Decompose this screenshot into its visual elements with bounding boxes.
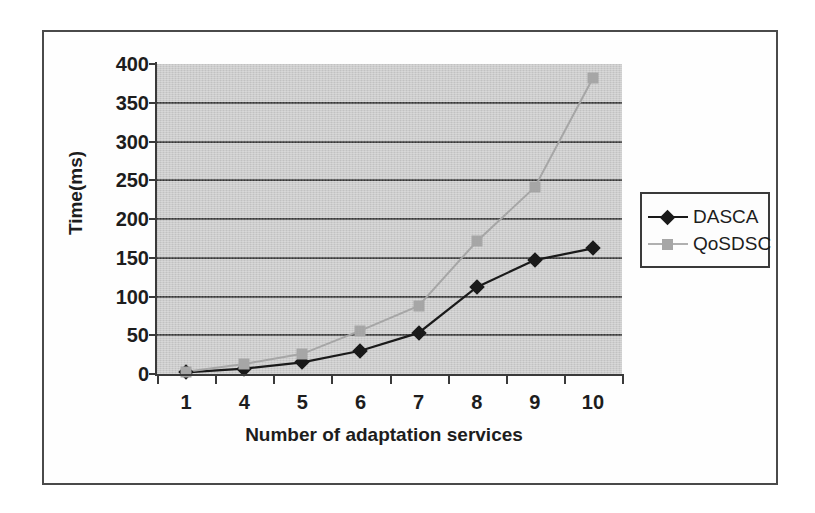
diamond-marker-icon <box>660 209 676 225</box>
x-axis-tick-label: 8 <box>455 392 499 412</box>
chart-legend: DASCA QoSDSC <box>640 192 770 268</box>
figure-frame: 050100150200250300350400 145678910 Time(… <box>42 30 778 485</box>
line-chart: 050100150200250300350400 145678910 Time(… <box>44 32 780 487</box>
x-axis-tick <box>215 376 217 384</box>
x-axis-tick-label: 9 <box>513 392 557 412</box>
y-axis-tick-label: 150 <box>103 248 149 268</box>
series-line-qosdsc <box>186 78 593 372</box>
y-axis-tick-label: 50 <box>103 325 149 345</box>
y-axis-tick <box>149 63 157 65</box>
y-axis-tick-label: 400 <box>103 54 149 74</box>
y-axis-tick-label: 300 <box>103 132 149 152</box>
x-axis-tick <box>273 376 275 384</box>
x-axis-tick-label: 7 <box>397 392 441 412</box>
legend-item-dasca[interactable]: DASCA <box>648 203 761 230</box>
series-line-dasca <box>186 248 593 372</box>
square-marker-icon <box>662 239 673 250</box>
data-point-qosdsc-6 <box>355 325 366 336</box>
x-axis-tick <box>331 376 333 384</box>
x-axis-tick <box>157 376 159 384</box>
y-axis-tick-label: 100 <box>103 287 149 307</box>
plot-area <box>157 64 622 374</box>
legend-swatch-dasca <box>648 210 688 224</box>
data-point-qosdsc-5 <box>297 348 308 359</box>
y-axis-tick-label: 0 <box>103 364 149 384</box>
series-lines <box>157 64 622 374</box>
x-axis-tick <box>390 376 392 384</box>
data-point-qosdsc-9 <box>529 182 540 193</box>
data-point-qosdsc-10 <box>587 72 598 83</box>
legend-label-qosdsc: QoSDSC <box>693 233 771 255</box>
data-point-qosdsc-8 <box>471 236 482 247</box>
y-axis-tick <box>149 296 157 298</box>
x-axis-tick <box>448 376 450 384</box>
x-axis-tick-label: 5 <box>280 392 324 412</box>
x-axis-tick <box>564 376 566 384</box>
x-axis-tick <box>622 376 624 384</box>
y-axis-tick <box>149 102 157 104</box>
y-axis-tick-label: 350 <box>103 93 149 113</box>
x-axis-tick-label: 6 <box>338 392 382 412</box>
y-axis-tick <box>149 373 157 375</box>
legend-label-dasca: DASCA <box>693 206 758 228</box>
y-axis-tick-label: 200 <box>103 209 149 229</box>
y-axis-tick <box>149 218 157 220</box>
x-axis-tick <box>506 376 508 384</box>
data-point-qosdsc-4 <box>239 358 250 369</box>
x-axis-tick-label: 1 <box>164 392 208 412</box>
y-axis-tick <box>149 179 157 181</box>
x-axis-tick-label: 10 <box>571 392 615 412</box>
y-axis-tick <box>149 141 157 143</box>
y-axis-title: Time(ms) <box>65 123 87 263</box>
legend-swatch-qosdsc <box>648 237 688 251</box>
y-axis-tick <box>149 334 157 336</box>
x-axis-tick-label: 4 <box>222 392 266 412</box>
y-axis-tick-label: 250 <box>103 170 149 190</box>
y-axis-tick-labels: 050100150200250300350400 <box>94 32 149 487</box>
legend-item-qosdsc[interactable]: QoSDSC <box>648 230 761 257</box>
y-axis-tick <box>149 257 157 259</box>
x-axis-title: Number of adaptation services <box>114 424 654 446</box>
data-point-qosdsc-7 <box>413 300 424 311</box>
